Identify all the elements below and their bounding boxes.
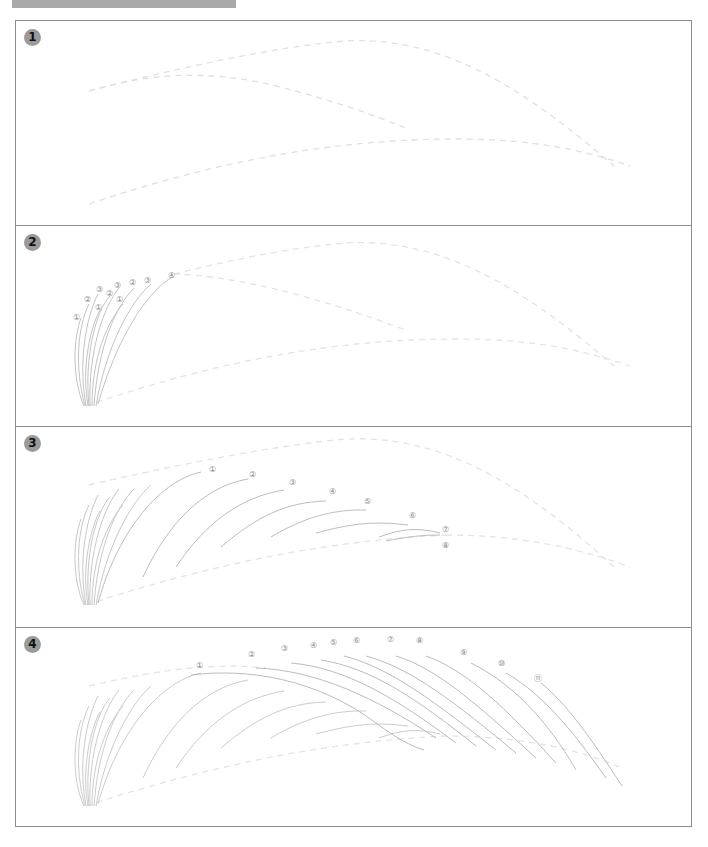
primary-feather-strokes <box>75 485 151 605</box>
stroke-label: ⑥ <box>353 636 360 645</box>
lower-guide-curve <box>89 139 630 204</box>
stroke-label: ① <box>209 465 216 474</box>
stroke-label: ③ <box>281 644 288 653</box>
wing-drawing-step-4: ① ② ③ ④ ⑤ ⑥ ⑦ ⑧ ⑨ ⑩ ⑪ <box>16 628 693 829</box>
stroke-order-labels: ① ② ③ ④ ⑤ ⑥ ⑦ ⑧ ⑨ ⑩ ⑪ <box>196 635 542 683</box>
stroke-label: ③ <box>144 276 151 285</box>
header-strip <box>12 0 236 8</box>
secondary-feather-strokes <box>98 673 440 804</box>
panel-step-4: 4 <box>16 627 691 828</box>
stroke-label: ④ <box>168 271 175 280</box>
stroke-label: ① <box>196 661 203 670</box>
stroke-label: ⑥ <box>409 511 416 520</box>
stroke-label: ⑧ <box>442 541 449 550</box>
covert-feather-strokes <box>191 656 622 786</box>
stroke-order-labels: ① ② ③ ① ② ③ ① ② ③ ④ <box>73 271 175 322</box>
stroke-label: ② <box>129 278 136 287</box>
stroke-label: ⑧ <box>416 636 423 645</box>
stroke-label: ④ <box>310 641 317 650</box>
stroke-label: ② <box>248 650 255 659</box>
stroke-label: ② <box>249 470 256 479</box>
step-diagram-frame: 1 2 <box>15 20 692 827</box>
stroke-label: ③ <box>96 285 103 294</box>
wing-drawing-step-3: ① ② ③ ④ ⑤ ⑥ ⑦ ⑧ <box>16 427 693 628</box>
stroke-label: ⑤ <box>364 497 371 506</box>
panel-step-3: 3 <box>16 426 691 627</box>
stroke-label: ⑦ <box>442 525 449 534</box>
secondary-feather-strokes <box>98 472 440 603</box>
stroke-label: ⑦ <box>387 635 394 644</box>
stroke-label: ⑪ <box>534 674 542 683</box>
upper-guide-curve <box>89 41 614 166</box>
stroke-label: ③ <box>289 478 296 487</box>
stroke-label: ① <box>95 303 102 312</box>
stroke-label: ② <box>106 289 113 298</box>
panel-step-2: 2 ① ② ③ ① <box>16 225 691 426</box>
wing-drawing-step-2: ① ② ③ ① ② ③ ① ② ③ ④ <box>16 226 693 427</box>
stroke-label: ② <box>84 295 91 304</box>
stroke-label: ⑨ <box>460 648 467 657</box>
wing-guide-outline <box>16 21 693 225</box>
stroke-label: ③ <box>114 281 121 290</box>
stroke-label: ④ <box>329 487 336 496</box>
stroke-label: ① <box>73 313 80 322</box>
inner-guide-curve <box>89 75 408 129</box>
primary-feather-strokes <box>75 686 151 806</box>
stroke-label: ⑩ <box>498 659 505 668</box>
stroke-label: ① <box>116 295 123 304</box>
panel-step-1: 1 <box>16 21 691 225</box>
stroke-label: ⑤ <box>330 638 337 647</box>
